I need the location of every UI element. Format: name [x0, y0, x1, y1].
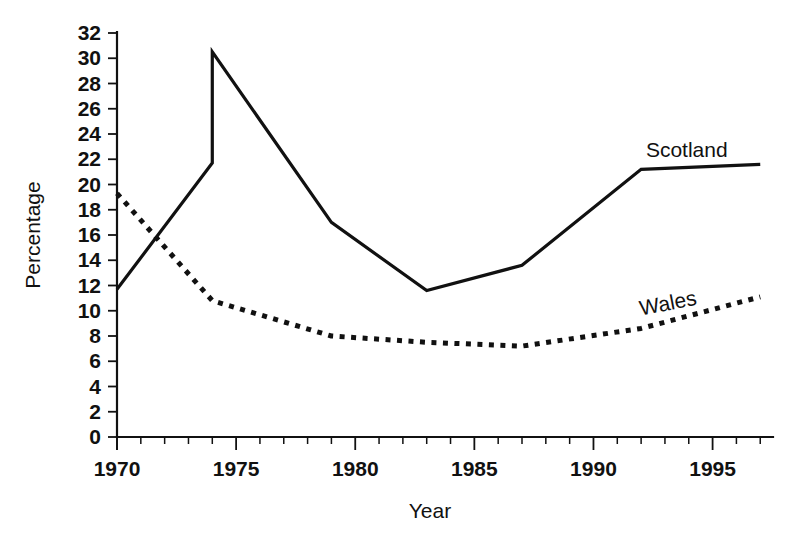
y-tick-label: 24 [78, 122, 102, 145]
y-axis: 02468101214161820222426283032 [78, 21, 117, 448]
y-tick-label: 32 [78, 21, 101, 44]
y-tick-label: 10 [78, 299, 101, 322]
x-tick-label: 1975 [213, 457, 260, 480]
x-tick-label: 1970 [94, 457, 141, 480]
y-tick-label: 8 [89, 324, 101, 347]
y-tick-label: 28 [78, 72, 102, 95]
x-tick-label: 1985 [451, 457, 498, 480]
line-chart: 02468101214161820222426283032 1970197519… [0, 0, 796, 538]
y-axis-title: Percentage [21, 181, 44, 288]
x-axis-title: Year [409, 499, 451, 522]
chart-canvas: 02468101214161820222426283032 1970197519… [0, 0, 796, 538]
y-tick-label: 30 [78, 46, 101, 69]
y-tick-label: 18 [78, 198, 102, 221]
series-label-wales: Wales [637, 286, 698, 320]
x-tick-label: 1990 [570, 457, 617, 480]
series-label-scotland: Scotland [646, 138, 728, 161]
x-axis: 197019751980198519901995 [94, 430, 773, 480]
series-line-wales [117, 193, 760, 346]
y-tick-label: 20 [78, 173, 101, 196]
y-tick-label: 0 [89, 425, 101, 448]
x-tick-label: 1980 [332, 457, 379, 480]
series-line-scotland [117, 52, 760, 291]
y-tick-label: 4 [89, 375, 101, 398]
y-tick-label: 22 [78, 147, 101, 170]
x-tick-label: 1995 [689, 457, 736, 480]
y-tick-label: 26 [78, 97, 101, 120]
y-tick-label: 16 [78, 223, 101, 246]
y-tick-label: 2 [89, 400, 101, 423]
y-tick-label: 14 [78, 248, 102, 271]
y-tick-group: 02468101214161820222426283032 [78, 21, 117, 448]
y-tick-label: 6 [89, 349, 101, 372]
y-tick-label: 12 [78, 274, 101, 297]
